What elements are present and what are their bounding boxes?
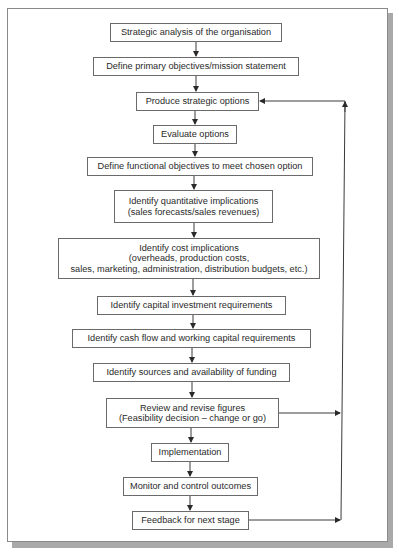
step-sources-of-funding: Identify sources and availability of fun… [93, 363, 290, 382]
step-capital-investment: Identify capital investment requirements [97, 296, 286, 315]
step-sublabel: (Feasibility decision – change or go) [119, 413, 266, 424]
step-review-revise: Review and revise figures (Feasibility d… [106, 398, 279, 428]
feedback-vertical-line [341, 101, 345, 520]
step-cash-flow: Identify cash flow and working capital r… [72, 329, 311, 348]
step-label: Identify cash flow and working capital r… [88, 333, 296, 344]
step-label: Define primary objectives/mission statem… [106, 61, 286, 72]
step-label: Implementation [159, 447, 222, 458]
step-sublabel: (overheads, production costs, [129, 253, 250, 264]
step-sublabel: sales, marketing, administration, distri… [71, 264, 308, 275]
step-cost-implications: Identify cost implications (overheads, p… [58, 238, 320, 279]
step-implementation: Implementation [151, 443, 229, 462]
step-label: Strategic analysis of the organisation [121, 27, 271, 38]
step-label: Identify sources and availability of fun… [106, 367, 276, 378]
step-quantitative-implications: Identify quantitative implications (sale… [114, 190, 273, 223]
step-label: Identify quantitative implications [129, 196, 259, 207]
step-sublabel: (sales forecasts/sales revenues) [128, 207, 260, 218]
step-label: Feedback for next stage [141, 515, 240, 526]
step-label: Define functional objectives to meet cho… [98, 161, 303, 172]
step-define-functional-objectives: Define functional objectives to meet cho… [87, 157, 313, 176]
step-label: Evaluate options [161, 129, 229, 140]
step-label: Review and revise figures [140, 403, 245, 414]
step-label: Produce strategic options [146, 96, 250, 107]
step-label: Identify cost implications [139, 243, 239, 254]
step-label: Identify capital investment requirements [111, 300, 273, 311]
step-evaluate-options: Evaluate options [153, 125, 237, 144]
step-strategic-analysis: Strategic analysis of the organisation [110, 23, 282, 42]
step-label: Monitor and control outcomes [130, 481, 251, 492]
step-feedback: Feedback for next stage [132, 511, 249, 530]
step-define-primary-objectives: Define primary objectives/mission statem… [93, 57, 299, 76]
step-produce-strategic-options: Produce strategic options [136, 92, 259, 111]
step-monitor-control: Monitor and control outcomes [123, 477, 258, 496]
